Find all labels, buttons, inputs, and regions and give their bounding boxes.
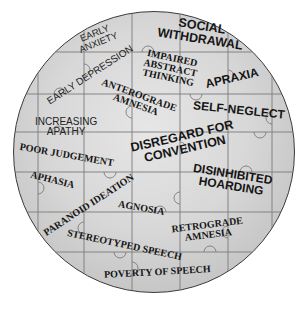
- label-increasing-apathy: INCREASING APATHY: [35, 117, 97, 137]
- dementia-symptoms-puzzle: SOCIAL WITHDRAWAL EARLY ANXIETY EARLY DE…: [0, 0, 307, 312]
